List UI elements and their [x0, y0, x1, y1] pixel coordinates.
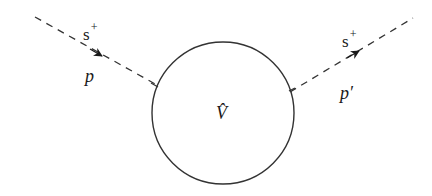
incoming-charge-label: +: [91, 20, 98, 34]
vertex-operator-label: V̂: [216, 103, 229, 123]
scattering-diagram: s+ p s+ p′ V̂: [0, 0, 432, 196]
outgoing-momentum-label: p′: [338, 83, 354, 103]
outgoing-particle-label: s+: [342, 27, 357, 51]
outgoing-arrow-icon: [347, 51, 359, 58]
incoming-momentum-label: p: [83, 66, 94, 86]
incoming-particle-label: s+: [83, 20, 98, 44]
incoming-arrow-icon: [90, 49, 102, 56]
outgoing-charge-label: +: [350, 27, 357, 41]
